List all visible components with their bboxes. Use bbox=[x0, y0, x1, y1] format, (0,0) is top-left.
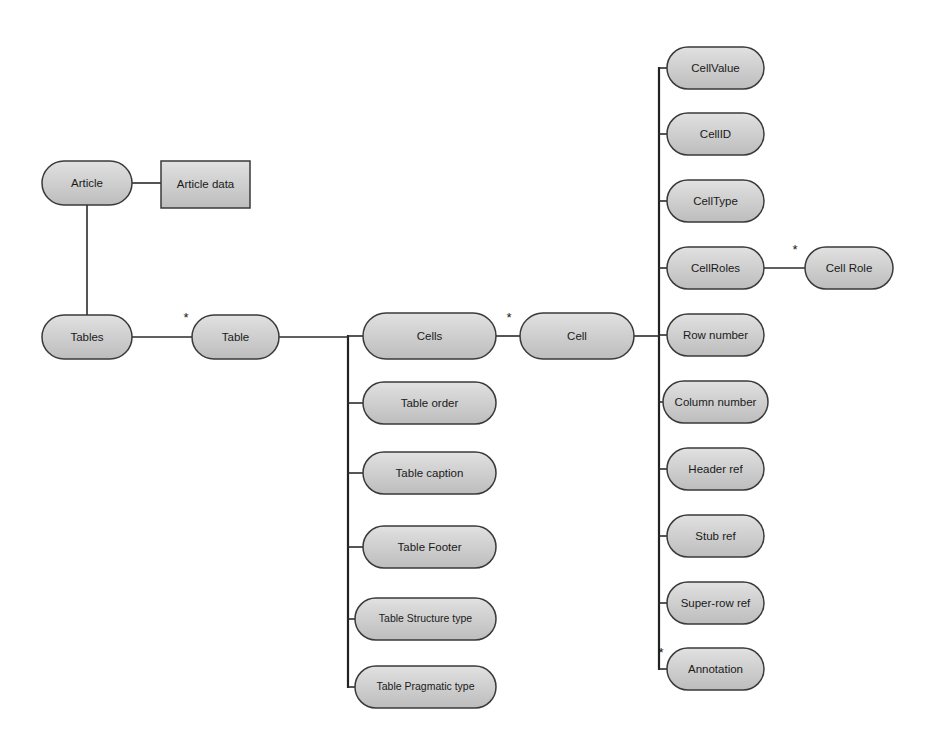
multiplicity-mult-tables-table: * bbox=[183, 310, 188, 325]
node-tables[interactable]: Tables bbox=[42, 315, 132, 359]
node-pill-shape bbox=[663, 381, 768, 423]
node-cell[interactable]: Cell bbox=[520, 313, 634, 359]
node-pill-shape bbox=[355, 598, 496, 640]
node-pill-shape bbox=[520, 313, 634, 359]
node-pill-shape bbox=[667, 180, 764, 222]
node-cellroles[interactable]: CellRoles bbox=[667, 247, 764, 289]
node-pill-shape bbox=[192, 315, 279, 359]
node-column-number[interactable]: Column number bbox=[663, 381, 768, 423]
node-pill-shape bbox=[363, 382, 496, 424]
node-table-structure-type[interactable]: Table Structure type bbox=[355, 598, 496, 640]
node-article-data[interactable]: Article data bbox=[161, 161, 250, 208]
node-pill-shape bbox=[667, 448, 764, 490]
diagram-root: ArticleArticle dataTablesTableCellsCellT… bbox=[0, 0, 935, 747]
node-pill-shape bbox=[363, 452, 496, 494]
node-article[interactable]: Article bbox=[42, 161, 132, 205]
node-cells[interactable]: Cells bbox=[363, 313, 496, 359]
node-pill-shape bbox=[355, 666, 496, 708]
node-cell-role[interactable]: Cell Role bbox=[805, 247, 893, 289]
node-pill-shape bbox=[667, 113, 764, 155]
node-pill-shape bbox=[363, 313, 496, 359]
node-pill-shape bbox=[42, 315, 132, 359]
node-header-ref[interactable]: Header ref bbox=[667, 448, 764, 490]
node-pill-shape bbox=[667, 515, 764, 557]
node-super-row-ref[interactable]: Super-row ref bbox=[667, 582, 764, 624]
node-cellvalue[interactable]: CellValue bbox=[667, 47, 764, 89]
node-pill-shape bbox=[42, 161, 132, 205]
node-table[interactable]: Table bbox=[192, 315, 279, 359]
node-table-caption[interactable]: Table caption bbox=[363, 452, 496, 494]
multiplicity-mult-cellroles-cell-role: * bbox=[792, 242, 797, 257]
node-stub-ref[interactable]: Stub ref bbox=[667, 515, 764, 557]
node-pill-shape bbox=[667, 582, 764, 624]
multiplicity-mult-cells-cell: * bbox=[506, 310, 511, 325]
node-rect-shape bbox=[161, 161, 250, 208]
node-pill-shape bbox=[805, 247, 893, 289]
node-cellid[interactable]: CellID bbox=[667, 113, 764, 155]
node-celltype[interactable]: CellType bbox=[667, 180, 764, 222]
node-annotation[interactable]: Annotation bbox=[667, 648, 764, 690]
node-table-footer[interactable]: Table Footer bbox=[363, 526, 496, 568]
node-table-order[interactable]: Table order bbox=[363, 382, 496, 424]
node-pill-shape bbox=[667, 314, 764, 356]
node-layer: ArticleArticle dataTablesTableCellsCellT… bbox=[42, 47, 893, 708]
node-pill-shape bbox=[667, 247, 764, 289]
node-row-number[interactable]: Row number bbox=[667, 314, 764, 356]
entity-relationship-diagram: ArticleArticle dataTablesTableCellsCellT… bbox=[0, 0, 935, 747]
spine-cell-spine bbox=[659, 68, 667, 669]
node-pill-shape bbox=[667, 47, 764, 89]
node-pill-shape bbox=[363, 526, 496, 568]
node-pill-shape bbox=[667, 648, 764, 690]
spine-layer bbox=[348, 68, 667, 687]
node-table-pragmatic-type[interactable]: Table Pragmatic type bbox=[355, 666, 496, 708]
